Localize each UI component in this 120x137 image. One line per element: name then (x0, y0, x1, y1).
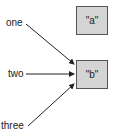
name-label-two: two (8, 69, 24, 79)
object-label-a: "a" (86, 15, 99, 26)
arrow-one-to-b (26, 24, 74, 64)
name-label-one: one (6, 18, 23, 28)
name-label-three: three (1, 121, 24, 131)
object-label-b: "b" (86, 69, 99, 80)
object-box-a: "a" (76, 6, 108, 35)
object-box-b: "b" (76, 60, 108, 89)
arrow-three-to-b (28, 84, 74, 126)
